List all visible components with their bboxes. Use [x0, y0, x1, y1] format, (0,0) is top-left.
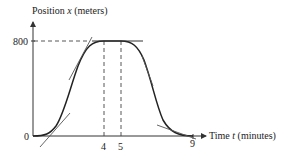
position-curve — [33, 41, 193, 136]
position-time-graph: Position x (meters) Time t (minutes) 800… — [0, 0, 288, 160]
x-axis-label: Time t (minutes) — [209, 130, 276, 142]
x-tick-label-4: 4 — [101, 141, 106, 152]
x-tick-label-5: 5 — [118, 141, 123, 152]
tangent-line-2 — [69, 37, 92, 80]
tangent-line-5 — [157, 125, 196, 139]
y-axis-label: Position x (meters) — [32, 5, 108, 17]
x-tick-label-9: 9 — [190, 138, 195, 149]
tangent-line-4 — [142, 56, 153, 86]
y-tick-label-800: 800 — [13, 36, 28, 47]
y-tick-label-0: 0 — [24, 131, 29, 142]
tangent-line-1 — [40, 113, 70, 147]
